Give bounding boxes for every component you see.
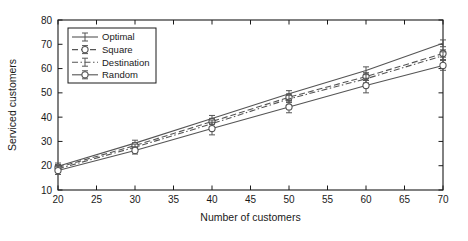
y-tick-label: 60 <box>41 63 53 74</box>
legend-label: Random <box>102 69 138 80</box>
x-tick-label: 50 <box>283 194 295 205</box>
legend-marker <box>82 47 88 53</box>
x-tick-label: 30 <box>129 194 141 205</box>
chart-container: 2025303540455055606570 1020304050607080 … <box>0 0 468 241</box>
data-marker <box>55 167 61 173</box>
x-tick-label: 55 <box>322 194 334 205</box>
chart-legend: OptimalSquareDestinationRandom <box>68 28 156 83</box>
x-tick-label: 70 <box>437 194 449 205</box>
legend-label: Destination <box>102 57 150 68</box>
x-tick-label: 35 <box>168 194 180 205</box>
data-marker <box>440 62 446 68</box>
data-marker <box>209 125 215 131</box>
legend-label: Square <box>102 44 133 55</box>
x-tick-label: 25 <box>91 194 103 205</box>
y-tick-label: 80 <box>41 15 53 26</box>
y-tick-label: 50 <box>41 87 53 98</box>
error-bar <box>132 147 138 154</box>
x-tick-label: 65 <box>399 194 411 205</box>
legend-label: Optimal <box>102 31 135 42</box>
x-tick-label: 45 <box>245 194 257 205</box>
error-bar <box>55 167 61 175</box>
data-marker <box>363 82 369 88</box>
y-tick-label: 20 <box>41 160 53 171</box>
x-tick-label: 60 <box>360 194 372 205</box>
legend-marker <box>82 72 88 78</box>
y-tick-label: 10 <box>41 185 53 196</box>
y-tick-label: 30 <box>41 136 53 147</box>
x-axis-title: Number of customers <box>200 211 300 223</box>
y-tick-label: 40 <box>41 112 53 123</box>
y-axis-title: Serviced customers <box>6 59 18 151</box>
x-tick-label: 20 <box>52 194 64 205</box>
data-marker <box>286 104 292 110</box>
y-tick-label: 70 <box>41 39 53 50</box>
data-marker <box>132 147 138 153</box>
x-tick-label: 40 <box>206 194 218 205</box>
line-chart: 2025303540455055606570 1020304050607080 … <box>0 0 468 241</box>
